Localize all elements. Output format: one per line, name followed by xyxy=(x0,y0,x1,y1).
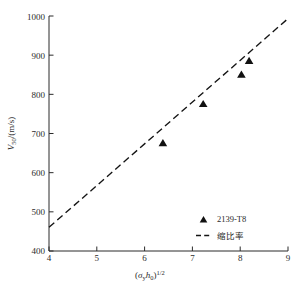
x-tick-label: 4 xyxy=(47,253,52,263)
y-axis-ticks xyxy=(49,16,54,251)
y-tick-label: 900 xyxy=(32,51,46,61)
triangle-up-icon xyxy=(200,216,208,222)
data-point-markers xyxy=(159,57,254,147)
trend-line-scaling-law xyxy=(49,19,288,228)
axes-group xyxy=(49,16,288,251)
chart-legend: 2139-T8 缩比率 xyxy=(196,214,246,241)
data-point-marker xyxy=(245,57,254,64)
data-point-marker xyxy=(199,100,208,107)
x-tick-label: 6 xyxy=(142,253,147,263)
data-point-marker xyxy=(237,71,246,78)
y-axis-title: V50/(m/s) xyxy=(6,117,17,151)
chart-figure: 1000 900 800 700 600 500 400 4 5 6 7 8 9 xyxy=(0,0,296,289)
y-axis-tick-labels: 1000 900 800 700 600 500 400 xyxy=(27,12,46,257)
x-axis-tick-labels: 4 5 6 7 8 9 xyxy=(47,253,291,263)
x-tick-label: 5 xyxy=(95,253,100,263)
legend-item-label-series-1: 2139-T8 xyxy=(217,214,246,224)
scatter-plot-canvas: 1000 900 800 700 600 500 400 4 5 6 7 8 9 xyxy=(0,0,296,289)
y-tick-label: 600 xyxy=(32,168,46,178)
x-tick-label: 7 xyxy=(190,253,195,263)
y-tick-label: 1000 xyxy=(27,12,46,22)
x-tick-label: 9 xyxy=(286,253,291,263)
data-point-marker xyxy=(159,139,168,146)
y-tick-label: 500 xyxy=(32,207,46,217)
legend-item-label-series-2: 缩比率 xyxy=(217,231,244,241)
x-tick-label: 8 xyxy=(238,253,243,263)
y-tick-label: 700 xyxy=(32,129,46,139)
y-tick-label: 800 xyxy=(32,90,46,100)
x-axis-ticks xyxy=(49,247,288,252)
y-tick-label: 400 xyxy=(32,246,46,256)
x-axis-title: (σyh0)1/2 xyxy=(135,269,165,281)
